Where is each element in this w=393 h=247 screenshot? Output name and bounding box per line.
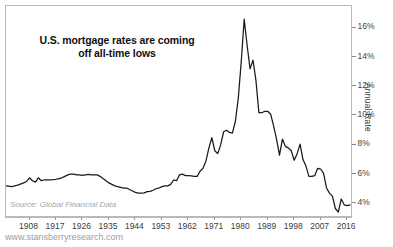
y-tick-label: 6% — [358, 168, 370, 178]
y-tick-mark — [352, 56, 356, 57]
y-tick-label: 16% — [358, 21, 375, 31]
x-axis-rule — [5, 217, 352, 218]
x-tick-mark — [161, 217, 162, 220]
x-tick-label: 1953 — [151, 221, 170, 231]
x-tick-mark — [187, 217, 188, 220]
x-tick-mark — [240, 217, 241, 220]
y-tick-mark — [352, 144, 356, 145]
x-tick-label: 1962 — [178, 221, 197, 231]
x-tick-mark — [134, 217, 135, 220]
y-axis-tick: 16% — [352, 21, 375, 32]
x-tick-label: 1944 — [125, 221, 144, 231]
y-tick-label: 4% — [358, 197, 370, 207]
x-tick-label: 1917 — [46, 221, 65, 231]
x-tick-mark — [108, 217, 109, 220]
x-tick-label: 1908 — [19, 221, 38, 231]
x-tick-label: 1980 — [231, 221, 250, 231]
y-tick-mark — [352, 173, 356, 174]
x-tick-mark — [55, 217, 56, 220]
footer-url: www.stansberryresearch.com — [5, 232, 123, 242]
y-tick-mark — [352, 27, 356, 28]
y-tick-label: 14% — [358, 51, 375, 61]
x-axis: 1908191719261935194419531962197119801989… — [0, 217, 393, 233]
x-tick-label: 2016 — [337, 221, 356, 231]
x-tick-mark — [81, 217, 82, 220]
x-tick-label: 1998 — [284, 221, 303, 231]
x-tick-mark — [320, 217, 321, 220]
y-axis-tick: 14% — [352, 51, 375, 62]
x-tick-label: 1971 — [204, 221, 223, 231]
y-axis-tick: 4% — [352, 197, 370, 208]
y-axis-label: Annual Rate — [363, 83, 373, 153]
x-tick-label: 1989 — [257, 221, 276, 231]
x-tick-mark — [267, 217, 268, 220]
y-tick-mark — [352, 114, 356, 115]
x-tick-label: 2007 — [310, 221, 329, 231]
x-tick-mark — [214, 217, 215, 220]
source-note: Source: Global Financial Data — [10, 200, 116, 209]
y-axis-tick: 6% — [352, 168, 370, 179]
x-tick-label: 1926 — [72, 221, 91, 231]
x-tick-label: 1935 — [98, 221, 117, 231]
x-tick-mark — [346, 217, 347, 220]
x-tick-mark — [29, 217, 30, 220]
x-tick-mark — [293, 217, 294, 220]
chart-figure: U.S. mortgage rates are coming off all-t… — [0, 0, 393, 247]
chart-title: U.S. mortgage rates are coming off all-t… — [22, 34, 212, 60]
y-tick-mark — [352, 85, 356, 86]
y-tick-mark — [352, 202, 356, 203]
